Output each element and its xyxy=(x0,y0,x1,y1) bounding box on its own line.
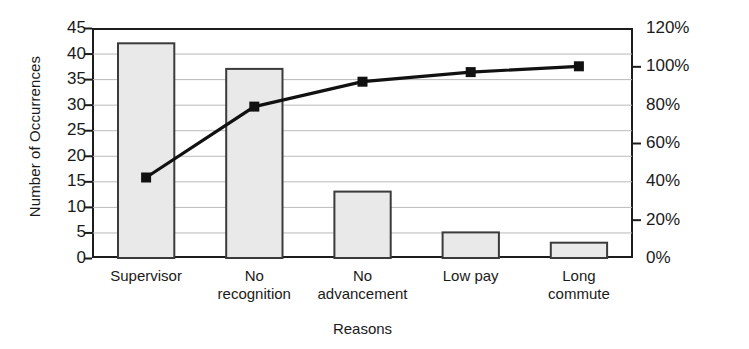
y-tick-label: 15 xyxy=(42,172,86,189)
y-tick-label: 35 xyxy=(42,70,86,87)
x-axis-title: Reasons xyxy=(92,320,633,337)
plot-area xyxy=(92,28,633,258)
y2-tick-label: 120% xyxy=(646,19,716,36)
x-category-label-line: No xyxy=(302,267,422,285)
y2-tick-label: 40% xyxy=(646,172,716,189)
x-category-label-line: No xyxy=(194,267,314,285)
x-category-label: Longcommute xyxy=(519,267,639,304)
x-category-label-line: commute xyxy=(519,285,639,303)
x-category-label: Noadvancement xyxy=(302,267,422,304)
y2-tick-label: 100% xyxy=(646,57,716,74)
x-category-label-line: recognition xyxy=(194,285,314,303)
y2-tick-label: 20% xyxy=(646,211,716,228)
y-tick-label: 45 xyxy=(42,19,86,36)
y2-tick-label: 80% xyxy=(646,96,716,113)
x-category-label-line: Supervisor xyxy=(86,267,206,285)
x-category-label: Supervisor xyxy=(86,267,206,285)
x-category-label-line: Long xyxy=(519,267,639,285)
y-tick-label: 25 xyxy=(42,121,86,138)
y2-tick-label: 60% xyxy=(646,134,716,151)
y-tick-label: 10 xyxy=(42,198,86,215)
y-axis-tick-labels: 051015202530354045 xyxy=(30,0,86,349)
y2-tick-label: 0% xyxy=(646,249,716,266)
pareto-chart: Number of Occurrences Reasons 0510152025… xyxy=(0,0,749,349)
y-tick-label: 30 xyxy=(42,96,86,113)
x-category-label-line: Low pay xyxy=(411,267,531,285)
y-tick-label: 40 xyxy=(42,45,86,62)
x-category-label: Norecognition xyxy=(194,267,314,304)
y-tick-label: 5 xyxy=(42,223,86,240)
y-tick-label: 0 xyxy=(42,249,86,266)
x-category-label-line: advancement xyxy=(302,285,422,303)
y2-axis-tick-labels: 0%20%40%60%80%100%120% xyxy=(646,0,746,349)
y-tick-label: 20 xyxy=(42,147,86,164)
x-category-label: Low pay xyxy=(411,267,531,285)
